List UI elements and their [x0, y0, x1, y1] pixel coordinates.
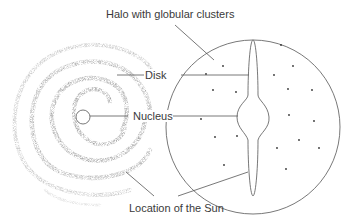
disk-label: Disk — [145, 69, 166, 81]
edge-on-disk — [237, 40, 269, 196]
sun-leader-left — [126, 172, 154, 196]
galaxy-diagram: Halo with globular clusters Disk Nucleus… — [0, 0, 350, 220]
halo-label: Halo with globular clusters — [106, 8, 234, 20]
spiral-galaxy-face-on — [14, 45, 152, 205]
nucleus-circle — [76, 110, 90, 124]
halo-leader — [175, 25, 214, 60]
sun-leader-right — [178, 172, 248, 196]
sun-label: Location of the Sun — [129, 202, 224, 214]
nucleus-label: Nucleus — [133, 110, 173, 122]
